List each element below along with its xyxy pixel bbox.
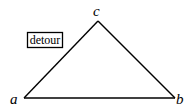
triangle-diagram: a b c detour — [0, 0, 193, 110]
detour-label: detour — [30, 33, 61, 47]
detour-box: detour — [28, 33, 63, 48]
vertex-label-c: c — [93, 3, 100, 19]
vertex-label-b: b — [176, 91, 184, 107]
edge-b-c — [98, 21, 175, 98]
vertex-label-a: a — [10, 91, 18, 107]
